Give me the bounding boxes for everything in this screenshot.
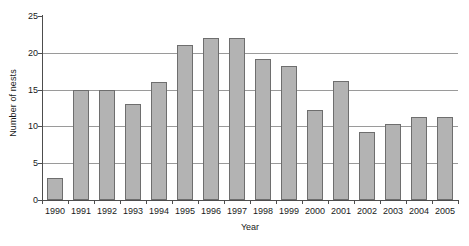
bar-2003 xyxy=(385,124,401,200)
bar-chart-figure: Number of nests 0510152025 1990199119921… xyxy=(0,0,469,246)
x-axis-tick-mark xyxy=(146,201,147,204)
bar-1991 xyxy=(73,90,89,200)
y-axis-title-text: Number of nests xyxy=(8,69,18,137)
x-axis-tick-mark xyxy=(42,201,43,204)
x-axis-tick-mark xyxy=(328,201,329,204)
bar-1994 xyxy=(151,82,167,200)
bar-1997 xyxy=(229,38,245,200)
bar-1993 xyxy=(125,104,141,200)
bar-1995 xyxy=(177,45,193,200)
x-axis-tick-mark xyxy=(354,201,355,204)
y-axis-tick-label: 25 xyxy=(22,12,38,21)
x-axis-tick-labels: 1990199119921993199419951996199719981999… xyxy=(42,205,459,219)
bar-2000 xyxy=(307,110,323,200)
x-axis-tick-mark xyxy=(406,201,407,204)
bar-2004 xyxy=(411,117,427,200)
bar-2001 xyxy=(333,81,349,200)
y-axis-tick-label: 10 xyxy=(22,122,38,131)
x-axis-tick-mark xyxy=(172,201,173,204)
x-axis-tick-mark xyxy=(68,201,69,204)
x-axis-tick-mark xyxy=(120,201,121,204)
x-axis-tick-mark xyxy=(302,201,303,204)
y-axis-tick-labels: 0510152025 xyxy=(20,0,38,246)
x-axis-tick-mark xyxy=(198,201,199,204)
x-axis-tick-label-2005: 2005 xyxy=(430,205,460,217)
bar-1999 xyxy=(281,66,297,200)
bars-layer xyxy=(42,16,458,200)
bar-2005 xyxy=(437,117,453,200)
y-axis-tick-label: 15 xyxy=(22,85,38,94)
x-axis-tick-mark xyxy=(458,201,459,204)
y-axis-tick-label: 20 xyxy=(22,48,38,57)
x-axis-tick-mark xyxy=(94,201,95,204)
bar-2002 xyxy=(359,132,375,200)
y-axis-tick-label: 5 xyxy=(22,159,38,168)
bar-1996 xyxy=(203,38,219,200)
y-axis-tick-label: 0 xyxy=(22,196,38,205)
bar-1998 xyxy=(255,59,271,200)
x-axis-tick-mark xyxy=(224,201,225,204)
x-axis-tick-mark xyxy=(250,201,251,204)
bar-1990 xyxy=(47,178,63,200)
x-axis-title: Year xyxy=(42,222,458,232)
x-axis-tick-mark xyxy=(276,201,277,204)
x-axis-tick-mark xyxy=(380,201,381,204)
bar-1992 xyxy=(99,90,115,200)
x-axis-tick-mark xyxy=(432,201,433,204)
